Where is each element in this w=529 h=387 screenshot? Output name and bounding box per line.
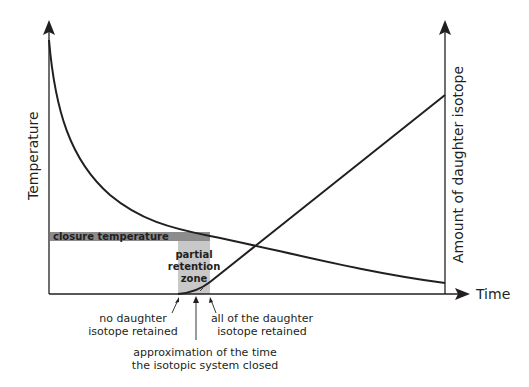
closure-time-note-2: the isotopic system closed — [132, 359, 278, 372]
closure-temperature-label: closure temperature — [53, 231, 169, 242]
no-daughter-note-2: isotope retained — [88, 325, 178, 338]
time-axis-label: Time — [475, 286, 510, 302]
partial-zone-label-1: partial — [175, 249, 212, 260]
all-daughter-note-2: isotope retained — [217, 325, 307, 338]
closure-time-note-1: approximation of the time — [133, 346, 277, 359]
temperature-curve — [49, 40, 445, 283]
temperature-axis-label: Temperature — [25, 111, 41, 201]
no-daughter-note-1: no daughter — [99, 312, 167, 325]
all-daughter-note-1: all of the daughter — [211, 312, 314, 325]
partial-zone-label-3: zone — [181, 273, 208, 284]
partial-zone-label-2: retention — [168, 261, 221, 272]
arrow-head-icon — [209, 297, 213, 303]
daughter-isotope-axis-label: Amount of daughter isotope — [450, 66, 466, 263]
arrow-head-icon — [175, 297, 179, 303]
arrow-head-icon — [193, 296, 199, 303]
diagram-canvas: Temperature Amount of daughter isotope T… — [0, 0, 529, 387]
